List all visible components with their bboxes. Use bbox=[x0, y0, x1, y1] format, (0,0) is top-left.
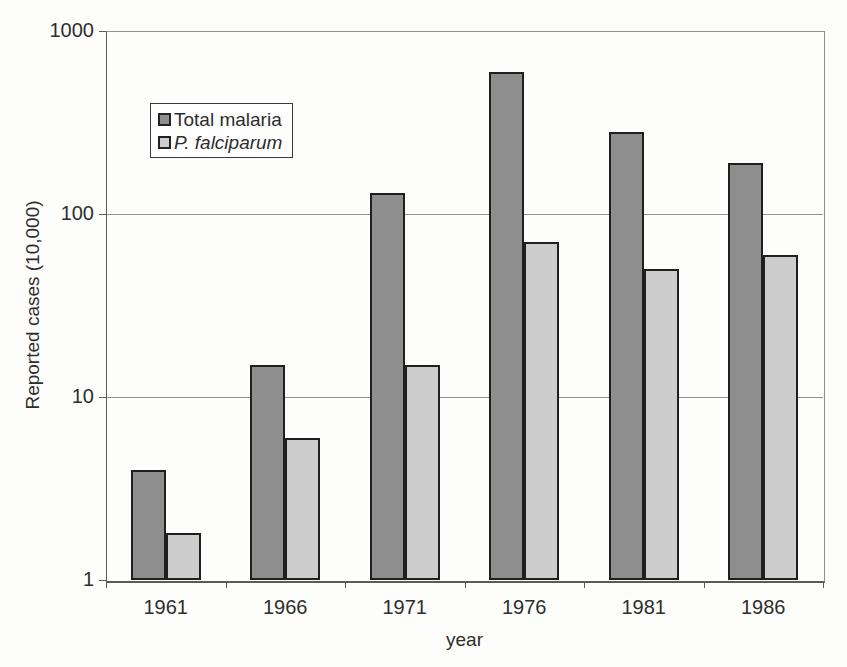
legend-item-total-malaria: Total malaria bbox=[158, 109, 292, 130]
y-tick-100 bbox=[99, 214, 106, 215]
y-tick-label-100: 100 bbox=[0, 202, 94, 225]
bar-p-falciparum-1966 bbox=[285, 438, 320, 580]
bar-p-falciparum-1971 bbox=[405, 365, 440, 580]
y-tick-label-1000: 1000 bbox=[0, 19, 94, 42]
y-tick-1 bbox=[99, 580, 106, 581]
legend-label-total-malaria: Total malaria bbox=[174, 109, 282, 131]
bar-total-malaria-1976 bbox=[489, 72, 524, 580]
x-category-label-1961: 1961 bbox=[106, 596, 226, 619]
y-tick-label-10: 10 bbox=[0, 385, 94, 408]
y-tick-10 bbox=[99, 397, 106, 398]
bar-p-falciparum-1961 bbox=[166, 533, 201, 580]
x-axis-title: year bbox=[106, 629, 823, 651]
legend-swatch-total-malaria bbox=[158, 113, 171, 126]
y-tick-1000 bbox=[99, 31, 106, 32]
bar-total-malaria-1966 bbox=[250, 365, 285, 580]
x-category-label-1986: 1986 bbox=[704, 596, 824, 619]
bar-total-malaria-1971 bbox=[370, 193, 405, 580]
x-category-label-1981: 1981 bbox=[584, 596, 704, 619]
bar-total-malaria-1961 bbox=[131, 470, 166, 580]
bar-total-malaria-1981 bbox=[609, 132, 644, 580]
bar-total-malaria-1986 bbox=[728, 163, 763, 580]
x-category-label-1966: 1966 bbox=[226, 596, 346, 619]
bar-p-falciparum-1986 bbox=[763, 255, 798, 580]
legend-swatch-p-falciparum bbox=[158, 136, 171, 149]
bar-p-falciparum-1976 bbox=[524, 242, 559, 580]
malaria-log-bar-chart: Reported cases (10,000) 1101001000196119… bbox=[0, 0, 847, 667]
y-tick-label-1: 1 bbox=[0, 568, 94, 591]
bar-p-falciparum-1981 bbox=[644, 269, 679, 580]
x-category-label-1976: 1976 bbox=[465, 596, 585, 619]
legend-item-p-falciparum: P. falciparum bbox=[158, 132, 292, 153]
y-axis-title: Reported cases (10,000) bbox=[22, 200, 44, 409]
legend-label-p-falciparum: P. falciparum bbox=[174, 132, 282, 154]
x-category-label-1971: 1971 bbox=[345, 596, 465, 619]
legend: Total malaria P. falciparum bbox=[150, 103, 293, 158]
